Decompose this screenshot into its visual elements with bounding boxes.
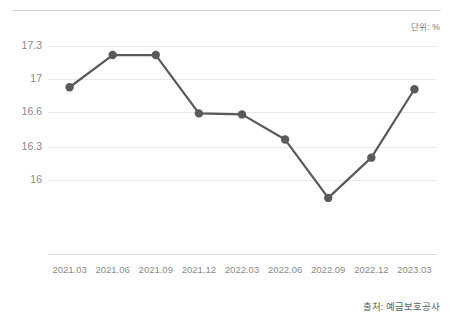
data-series-layer: [0, 0, 453, 323]
data-point-marker: [108, 51, 116, 59]
chart-card: 단위: % 17.31716.616.316 2021.032021.06202…: [0, 0, 453, 323]
source-label: 출처: 예금보호공사: [363, 299, 440, 313]
data-point-marker: [410, 85, 418, 93]
data-point-marker: [367, 153, 375, 161]
series-markers: [65, 51, 418, 202]
data-point-marker: [65, 83, 73, 91]
series-line: [70, 55, 415, 198]
data-point-marker: [195, 109, 203, 117]
data-point-marker: [281, 135, 289, 143]
data-point-marker: [238, 110, 246, 118]
data-point-marker: [152, 51, 160, 59]
data-point-marker: [324, 194, 332, 202]
